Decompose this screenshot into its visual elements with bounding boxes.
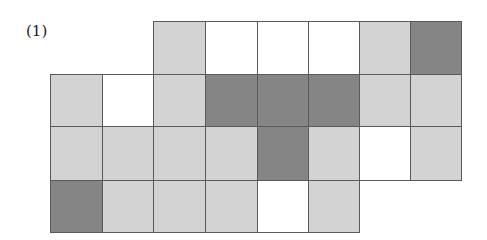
grid-cell-light [359,74,411,127]
grid-cell-dark [257,74,309,127]
grid-cell-light [308,180,360,233]
grid-cell-white [102,74,154,127]
grid-cell-light [359,21,411,75]
grid-cell-light [153,21,206,75]
grid-cell-light [50,126,103,181]
grid-cell-light [102,126,154,181]
grid-cell-light [153,126,206,181]
grid-cell-dark [257,126,309,181]
grid-cell-light [153,180,206,233]
grid-cell-light [205,180,258,233]
grid-cell-white [257,180,309,233]
grid-cell-light [410,126,462,181]
grid-cell-light [308,126,360,181]
grid-cell-light [153,74,206,127]
tile-grid [0,0,487,240]
grid-cell-white [257,21,309,75]
grid-cell-white [205,21,258,75]
grid-cell-dark [50,180,103,233]
grid-cell-white [359,126,411,181]
grid-cell-light [205,126,258,181]
grid-cell-dark [308,74,360,127]
grid-cell-dark [410,21,462,75]
grid-cell-light [102,180,154,233]
grid-cell-dark [205,74,258,127]
grid-cell-light [50,74,103,127]
grid-cell-light [410,74,462,127]
grid-cell-white [308,21,360,75]
